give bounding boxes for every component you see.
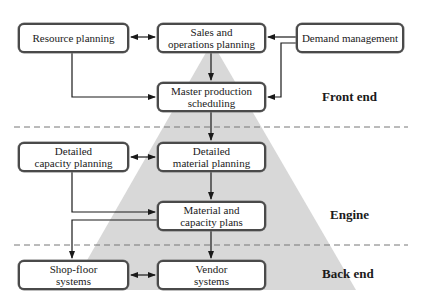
box-label-line2: scheduling: [188, 97, 236, 109]
box-label-line1: Shop-floor: [50, 263, 98, 275]
box-label: Demand management: [302, 32, 398, 44]
box-label-line1: Material and: [184, 204, 240, 216]
box-label-line2: operations planning: [168, 38, 255, 50]
section-label-back-end: Back end: [322, 266, 374, 282]
box-label-line1: Master production: [171, 85, 252, 97]
box-label-line2: systems: [194, 275, 229, 287]
box-shop-floor-systems: Shop-floor systems: [18, 260, 129, 290]
box-detailed-capacity-planning: Detailed capacity planning: [18, 142, 129, 172]
box-sales-operations-planning: Sales and operations planning: [157, 23, 266, 53]
box-label: Resource planning: [32, 32, 114, 44]
section-label-engine: Engine: [330, 207, 369, 223]
box-label-line1: Sales and: [191, 26, 233, 38]
box-label-line1: Vendor: [196, 263, 228, 275]
box-detailed-material-planning: Detailed material planning: [157, 142, 266, 172]
arrow-demand-master: [268, 43, 296, 97]
box-master-production-scheduling: Master production scheduling: [157, 82, 266, 112]
box-label-line1: Detailed: [55, 145, 92, 157]
box-label-line2: material planning: [173, 157, 250, 169]
arrow-resource-master: [72, 52, 155, 97]
box-material-capacity-plans: Material and capacity plans: [157, 201, 266, 231]
section-label-front-end: Front end: [322, 89, 377, 105]
box-resource-planning: Resource planning: [18, 23, 129, 53]
box-label-line2: capacity planning: [35, 157, 113, 169]
box-label-line2: capacity plans: [180, 216, 243, 228]
box-vendor-systems: Vendor systems: [157, 260, 266, 290]
box-label-line2: systems: [56, 275, 91, 287]
box-demand-management: Demand management: [296, 23, 404, 53]
box-label-line1: Detailed: [193, 145, 230, 157]
